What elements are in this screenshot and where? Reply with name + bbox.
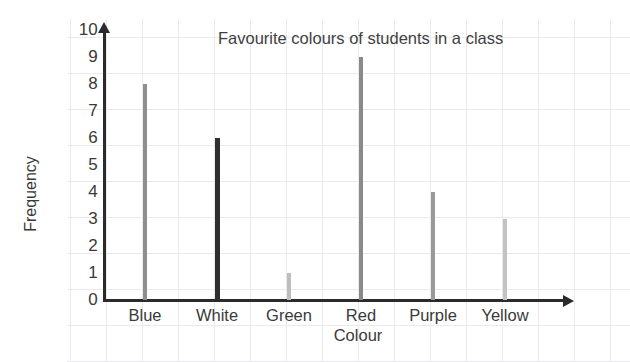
bar-purple	[431, 192, 435, 300]
bar-white	[215, 138, 220, 300]
bar-yellow	[503, 219, 507, 300]
x-axis-title: Colour	[334, 326, 383, 345]
x-tick-label-red: Red	[346, 305, 376, 325]
x-axis-tick-labels: BlueWhiteGreenRedPurpleYellow	[0, 305, 630, 329]
x-tick-label-purple: Purple	[409, 305, 457, 325]
x-tick-label-yellow: Yellow	[481, 305, 528, 325]
bar-green	[287, 273, 291, 300]
x-tick-label-green: Green	[266, 305, 312, 325]
x-tick-label-white: White	[196, 305, 238, 325]
bar-blue	[143, 84, 147, 300]
bar-series	[0, 0, 630, 300]
chart-canvas: Favourite colours of students in a class…	[0, 0, 630, 362]
x-tick-label-blue: Blue	[128, 305, 161, 325]
bar-red	[359, 57, 363, 300]
plot-area: Favourite colours of students in a class…	[0, 0, 630, 362]
